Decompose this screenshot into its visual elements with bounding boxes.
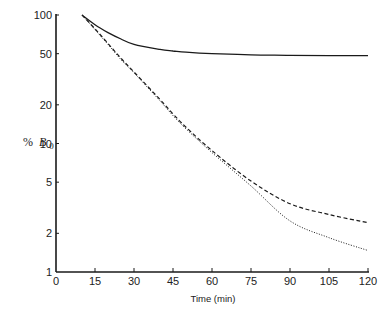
x-tick-label: 45 <box>167 275 179 287</box>
series-layer <box>82 15 368 251</box>
y-tick-label: 1 <box>46 266 52 278</box>
series-dashed-line <box>82 15 368 223</box>
x-tick-label: 0 <box>53 275 59 287</box>
y-axis-title-var: B <box>39 135 47 149</box>
x-tick-label: 60 <box>206 275 218 287</box>
x-tick-label: 30 <box>128 275 140 287</box>
series-dotted-line <box>82 15 368 251</box>
x-tick-label: 15 <box>89 275 101 287</box>
series-solid-line <box>82 15 368 56</box>
x-axis-title: Time (min) <box>190 293 235 304</box>
y-tick-label: 100 <box>34 9 52 21</box>
y-tick-label: 2 <box>46 227 52 239</box>
y-axis-title-prefix: % <box>23 135 33 149</box>
x-tick-label: 75 <box>245 275 257 287</box>
x-tick-label: 120 <box>359 275 377 287</box>
y-tick-label: 50 <box>40 48 52 60</box>
x-tick-label: 105 <box>320 275 338 287</box>
y-tick-label: 20 <box>40 99 52 111</box>
y-axis-title-sub: 0 <box>49 141 54 151</box>
x-axis-ticks: 0153045607590105120 <box>53 268 377 287</box>
x-tick-label: 90 <box>284 275 296 287</box>
y-tick-label: 5 <box>46 176 52 188</box>
chart: 125102050100 0153045607590105120 Time (m… <box>0 0 387 311</box>
